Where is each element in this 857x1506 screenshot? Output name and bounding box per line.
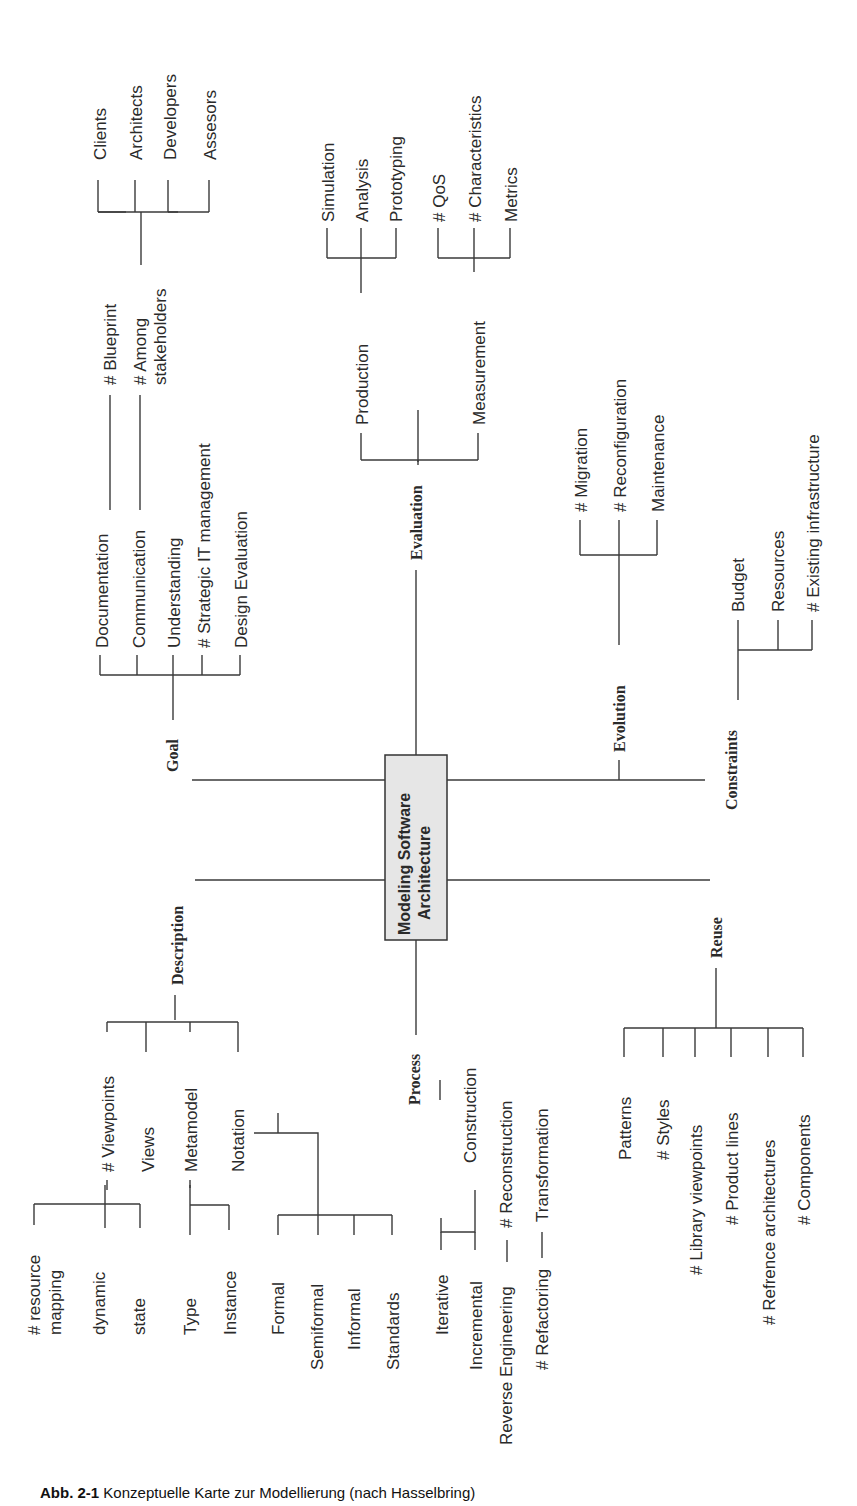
leaf-communication: Communication <box>130 530 149 648</box>
leaf-components: # Components <box>795 1114 814 1225</box>
leaf-instance: Instance <box>221 1271 240 1335</box>
leaf-views: Views <box>139 1127 158 1172</box>
leaf-blueprint: # Blueprint <box>101 303 120 385</box>
leaf-strategic-it: # Strategic IT management <box>195 443 214 648</box>
leaf-developers: Developers <box>161 74 180 160</box>
leaf-refactoring: # Refactoring <box>533 1269 552 1370</box>
center-title-line1: Modeling Software <box>396 793 413 935</box>
leaf-resource: # resource <box>25 1255 44 1335</box>
leaf-iterative: Iterative <box>433 1275 452 1335</box>
caption-number: Abb. 2-1 <box>40 1484 99 1501</box>
leaf-characteristics: # Characteristics <box>466 95 485 222</box>
caption-text: Konzeptuelle Karte zur Modellierung (nac… <box>103 1484 475 1501</box>
leaf-informal: Informal <box>345 1289 364 1350</box>
leaf-formal: Formal <box>269 1282 288 1335</box>
leaf-reconstruction: # Reconstruction <box>497 1100 516 1228</box>
branch-process: Process Construction Iterative Increment… <box>406 1054 552 1445</box>
process-label: Process <box>406 1054 423 1105</box>
leaf-state: state <box>130 1298 149 1335</box>
leaf-patterns: Patterns <box>616 1097 635 1160</box>
branch-reuse: Reuse Patterns # Styles # Library viewpo… <box>616 917 814 1325</box>
leaf-transformation: Transformation <box>533 1108 552 1222</box>
branch-evaluation: Evaluation Production Measurement Simula… <box>319 95 521 560</box>
branch-evolution: Evolution # Migration # Reconfiguration … <box>572 379 668 780</box>
center-title-line2: Architecture <box>416 826 433 920</box>
leaf-existing-infrastructure: # Existing infrastructure <box>804 434 823 612</box>
leaf-maintenance: Maintenance <box>649 415 668 512</box>
leaf-construction: Construction <box>461 1068 480 1163</box>
leaf-type: Type <box>181 1298 200 1335</box>
leaf-metrics: Metrics <box>502 167 521 222</box>
leaf-prototyping: Prototyping <box>387 136 406 222</box>
leaf-understanding: Understanding <box>165 537 184 648</box>
leaf-metamodel: Metamodel <box>182 1088 201 1172</box>
leaf-product-lines: # Product lines <box>723 1113 742 1225</box>
leaf-budget: Budget <box>729 558 748 612</box>
branch-description: Description # Viewpoints Views Metamodel… <box>25 906 403 1370</box>
leaf-design-evaluation: Design Evaluation <box>232 511 251 648</box>
reuse-label: Reuse <box>708 917 725 958</box>
leaf-migration: # Migration <box>572 428 591 512</box>
leaf-documentation: Documentation <box>93 534 112 648</box>
leaf-assessors: Assesors <box>201 90 220 160</box>
leaf-analysis: Analysis <box>353 159 372 222</box>
description-label: Description <box>169 906 187 985</box>
center-node: Modeling Software Architecture <box>385 755 447 940</box>
leaf-library-viewpoints: # Library viewpoints <box>687 1125 706 1275</box>
goal-label: Goal <box>164 739 181 772</box>
leaf-clients: Clients <box>91 108 110 160</box>
leaf-resources: Resources <box>769 531 788 612</box>
evolution-label: Evolution <box>611 685 628 752</box>
leaf-viewpoints: # Viewpoints <box>99 1076 118 1172</box>
evaluation-label: Evaluation <box>408 485 425 560</box>
constraints-label: Constraints <box>723 730 740 810</box>
leaf-simulation: Simulation <box>319 143 338 222</box>
leaf-standards: Standards <box>384 1293 403 1371</box>
leaf-refence-architectures: # Refrence architectures <box>760 1140 779 1325</box>
leaf-styles: # Styles <box>654 1100 673 1160</box>
leaf-measurement: Measurement <box>470 321 489 425</box>
figure-caption: Abb. 2-1 Konzeptuelle Karte zur Modellie… <box>40 1484 475 1501</box>
leaf-qos: # QoS <box>430 174 449 222</box>
leaf-incremental: Incremental <box>467 1281 486 1370</box>
mind-map-diagram: Modeling Software Architecture Goal Docu… <box>0 0 857 1506</box>
leaf-architects: Architects <box>127 85 146 160</box>
branch-constraints: Constraints Budget Resources # Existing … <box>723 434 823 810</box>
leaf-dynamic: dynamic <box>90 1271 109 1335</box>
branch-goal: Goal Documentation Communication Underst… <box>91 74 251 772</box>
leaf-among: # Among <box>131 318 150 385</box>
leaf-stakeholders: stakeholders <box>151 289 170 385</box>
leaf-semiformal: Semiformal <box>308 1284 327 1370</box>
leaf-reconfiguration: # Reconfiguration <box>611 379 630 512</box>
leaf-notation: Notation <box>229 1109 248 1172</box>
leaf-production: Production <box>353 344 372 425</box>
leaf-mapping: mapping <box>46 1270 65 1335</box>
leaf-reverse-engineering: Reverse Engineering <box>497 1286 516 1445</box>
